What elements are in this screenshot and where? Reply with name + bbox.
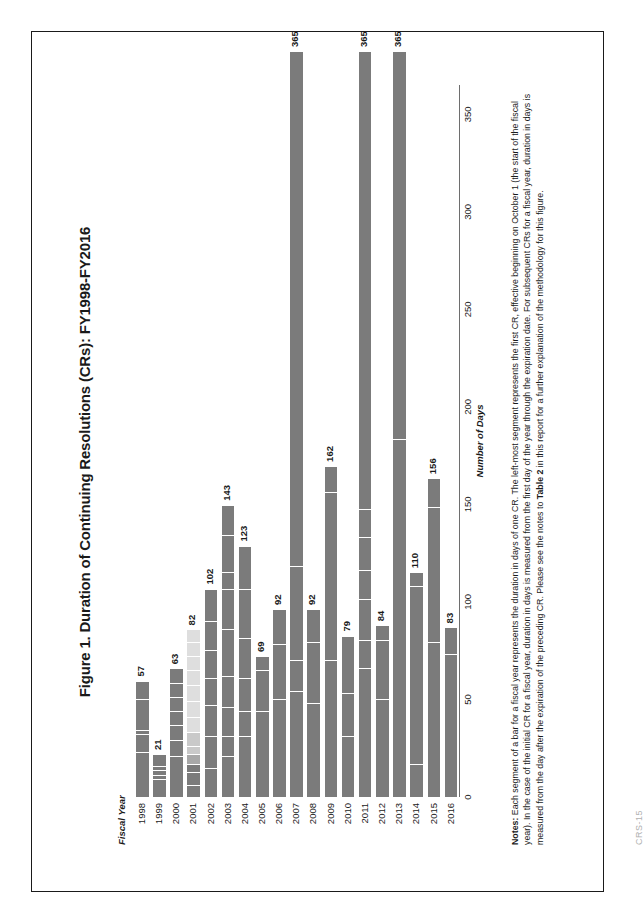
bar-segment [445, 654, 458, 797]
bar-segment [359, 570, 372, 599]
stacked-bar [239, 546, 252, 797]
bar-row: 201683 [444, 85, 458, 797]
bar-segment [205, 678, 218, 705]
bar-segment [359, 509, 372, 538]
bar-segment [222, 629, 235, 676]
bar-row: 2013365 [392, 85, 406, 797]
stacked-bar [342, 636, 355, 797]
bar-value-label: 365 [357, 31, 371, 47]
bar-segment [428, 507, 441, 642]
stacked-bar [393, 51, 406, 797]
bar-row: 201284 [375, 85, 389, 797]
bar-segment [222, 589, 235, 630]
bar-segment [187, 785, 200, 797]
bar-segment [325, 660, 338, 797]
bar-row: 2015156 [427, 85, 441, 797]
stacked-bar [376, 625, 389, 797]
bar-segment [428, 478, 441, 507]
bar-segment [205, 736, 218, 769]
bar-value-label: 69 [254, 641, 268, 652]
bar-segment [393, 439, 406, 797]
bar-segment [273, 609, 286, 644]
bar-segment [222, 535, 235, 572]
stacked-bar [290, 51, 303, 797]
bar-segment [307, 703, 320, 797]
y-tick-label: 2000 [169, 803, 183, 843]
bar-segment [342, 636, 355, 693]
bar-segment [239, 638, 252, 679]
bar-value-label: 57 [134, 666, 148, 677]
bar-segment [290, 660, 303, 691]
bar-value-label: 82 [185, 615, 199, 626]
y-tick-label: 1998 [135, 803, 149, 843]
bar-segment [222, 707, 235, 736]
bar-row: 2009162 [324, 85, 338, 797]
stacked-bar [445, 627, 458, 797]
bar-segment [290, 691, 303, 797]
stacked-bar [187, 629, 200, 797]
bar-segment [187, 701, 200, 717]
bar-segment [376, 640, 389, 699]
bar-value-label: 123 [237, 526, 251, 542]
bar-segment [342, 736, 355, 797]
bar-segment [187, 717, 200, 731]
bar-rows: 1998571999212000632001822002102200314320… [133, 85, 459, 797]
bar-segment [205, 768, 218, 797]
bar-segment [428, 642, 441, 797]
bar-value-label: 365 [288, 31, 302, 47]
y-tick-label: 2014 [409, 803, 423, 843]
bar-segment [359, 599, 372, 640]
bar-segment [153, 770, 166, 774]
stacked-bar [325, 466, 338, 797]
bar-value-label: 162 [323, 446, 337, 462]
y-tick-label: 2002 [204, 803, 218, 843]
stacked-bar [273, 609, 286, 797]
bar-row: 2002102 [204, 85, 218, 797]
y-tick-label: 2007 [289, 803, 303, 843]
bar-segment [187, 772, 200, 784]
bar-segment [273, 699, 286, 797]
bar-value-label: 102 [203, 569, 217, 585]
bar-segment [187, 656, 200, 670]
y-tick-label: 2003 [221, 803, 235, 843]
bar-segment [187, 685, 200, 701]
y-tick-label: 2016 [444, 803, 458, 843]
bar-row: 2011365 [358, 85, 372, 797]
bar-value-label: 63 [168, 654, 182, 665]
bar-value-label: 143 [220, 485, 234, 501]
stacked-bar [153, 754, 166, 797]
bar-segment [376, 625, 389, 639]
bar-segment [445, 627, 458, 654]
bar-value-label: 110 [408, 553, 422, 568]
bar-value-label: 21 [151, 740, 165, 751]
bar-segment [359, 537, 372, 570]
bar-segment [256, 670, 269, 711]
bar-segment [205, 650, 218, 679]
bar-segment [393, 51, 406, 439]
x-tick-label: 200 [462, 399, 473, 415]
stacked-bar [205, 589, 218, 797]
bar-segment [376, 699, 389, 797]
bar-segment [239, 589, 252, 638]
bar-segment [222, 736, 235, 756]
bar-segment [170, 697, 183, 711]
bar-value-label: 92 [271, 594, 285, 605]
bar-segment [153, 766, 166, 770]
bar-row: 2007365 [289, 85, 303, 797]
bar-segment [307, 642, 320, 703]
bar-segment [187, 670, 200, 684]
bar-chart: Fiscal Year 1998571999212000632001822002… [133, 79, 493, 845]
y-tick-label: 2015 [427, 803, 441, 843]
bar-segment [359, 51, 372, 509]
bar-segment [256, 656, 269, 670]
bar-segment [187, 732, 200, 746]
page-footer: CRS-15 [634, 810, 644, 845]
bar-segment [410, 572, 423, 586]
y-tick-label: 2004 [238, 803, 252, 843]
plot-area: 1998571999212000632001822002102200314320… [133, 85, 459, 797]
bar-row: 2003143 [221, 85, 235, 797]
stacked-bar [222, 505, 235, 797]
bar-value-label: 365 [391, 31, 405, 47]
bar-row: 199921 [152, 85, 166, 797]
